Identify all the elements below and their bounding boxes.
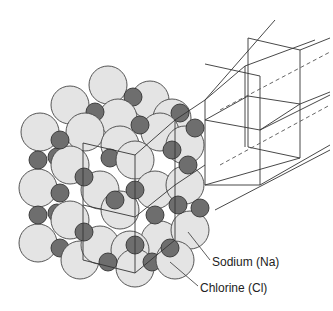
crystal-spheres — [19, 66, 209, 287]
chlorine-label: Chlorine (Cl) — [200, 281, 267, 295]
dashed-axis-lines — [220, 52, 330, 165]
sodium-label: Sodium (Na) — [212, 255, 279, 269]
unit-cell-wireframe — [205, 20, 330, 210]
nacl-lattice-diagram — [0, 0, 333, 311]
